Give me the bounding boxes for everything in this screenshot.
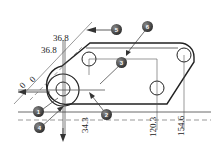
- callout-6: 6: [142, 21, 153, 32]
- callout-1: 1: [33, 106, 44, 117]
- callout-2: 2: [101, 109, 112, 120]
- dimension-154-6: 154.6: [177, 116, 186, 136]
- callout-5: 5: [111, 24, 122, 35]
- dimension-34-3: 34.3: [81, 117, 90, 133]
- dimension-36-8-bottom: 36.8: [41, 46, 57, 55]
- callout-3: 3: [116, 57, 127, 68]
- dimension-36-8-top: 36.8: [53, 34, 69, 43]
- callout-4: 4: [34, 122, 45, 133]
- technical-drawing: 36.8 36.8 0 0 34.3 120.3 154.6 1 2 3 4 5…: [0, 0, 211, 150]
- dimension-120-3: 120.3: [149, 117, 158, 137]
